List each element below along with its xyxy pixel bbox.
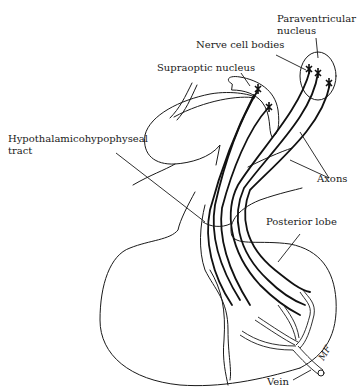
label-paraventricular-line2: nucleus: [277, 25, 356, 37]
leader-paraventricular: [316, 38, 318, 58]
label-supraoptic-nucleus: Supraoptic nucleus: [157, 62, 255, 74]
label-paraventricular: Paraventricular nucleus: [277, 13, 356, 37]
axon-supraoptic-2: [221, 108, 268, 305]
infundibulum-left-edge: [133, 164, 175, 185]
vein-end: [318, 370, 324, 376]
label-paraventricular-line1: Paraventricular: [277, 13, 356, 25]
label-tract: Hypothalamicohypophyseal tract: [8, 133, 148, 157]
capillary-branches: [240, 290, 314, 350]
leader-nerve-cell-bodies: [276, 55, 306, 70]
label-vein: Vein: [267, 376, 289, 388]
tract-band: [203, 222, 230, 226]
stalk-right-edge: [248, 148, 292, 167]
leader-tract: [116, 153, 205, 222]
label-nerve-cell-bodies: Nerve cell bodies: [196, 39, 284, 51]
leader-posterior-lobe: [278, 234, 300, 262]
lobe-divider-inner: [210, 270, 228, 385]
lobe-divider: [200, 205, 230, 380]
label-axons: Axons: [317, 173, 347, 185]
ventricle-line-1: [170, 83, 192, 118]
pituitary-illustration: [0, 0, 358, 392]
axon-supraoptic-1: [214, 90, 258, 300]
leader-axons: [290, 132, 329, 178]
nerve-cell-bodies: [255, 64, 332, 112]
leader-vein: [293, 370, 311, 380]
label-tract-line2: tract: [8, 145, 148, 157]
label-posterior-lobe: Posterior lobe: [266, 216, 337, 228]
ventricle-line-2: [177, 85, 197, 120]
posterior-lobe-outline: [231, 188, 336, 368]
label-tract-line1: Hypothalamicohypophyseal: [8, 133, 148, 145]
diagram-canvas: Paraventricular nucleus Nerve cell bodie…: [0, 0, 358, 392]
